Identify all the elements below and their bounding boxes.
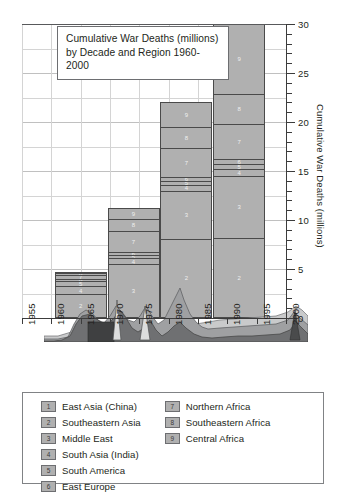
legend-label: Middle East	[62, 433, 113, 444]
y-tick-minor	[286, 191, 292, 192]
legend-swatch-1: 1	[41, 401, 56, 412]
y-axis-tick-label: 15	[298, 166, 309, 177]
legend-label: East Europe	[62, 481, 115, 492]
x-axis-tick-label: 1955	[26, 303, 37, 325]
legend-swatch-6: 6	[41, 481, 56, 492]
x-axis-tick-label: 1970	[114, 303, 125, 325]
x-axis-tick-label: 1975	[143, 303, 154, 325]
y-tick-minor	[286, 161, 292, 162]
y-tick-minor	[286, 63, 292, 64]
legend-swatch-7: 7	[165, 401, 180, 412]
legend-swatch-5: 5	[41, 465, 56, 476]
y-axis-title: Cumulative War Deaths (millions)	[315, 104, 326, 248]
x-axis-tick-label: 1960	[55, 303, 66, 325]
y-tick-minor	[286, 181, 292, 182]
legend-label: Southeastern Africa	[186, 417, 271, 428]
plot-top-border	[22, 24, 286, 25]
legend-swatch-3: 3	[41, 433, 56, 444]
y-tick-minor	[286, 112, 292, 113]
x-tick	[139, 318, 140, 324]
x-tick	[110, 318, 111, 324]
legend-columns: 1East Asia (China)2Southeastern Asia3Mid…	[41, 400, 321, 493]
y-tick-minor	[286, 34, 292, 35]
legend-label: Southeastern Asia	[62, 417, 141, 428]
stream-block-east-asia	[88, 322, 114, 342]
legend-column-left: 1East Asia (China)2Southeastern Asia3Mid…	[41, 400, 141, 493]
y-tick-major	[286, 122, 295, 123]
y-tick-major	[286, 73, 295, 74]
legend-label: Northern Africa	[186, 401, 251, 412]
y-tick-major	[286, 220, 295, 221]
legend-column-right: 7Northern Africa8Southeastern Africa9Cen…	[165, 400, 271, 493]
x-axis-tick-label: 1985	[202, 303, 213, 325]
x-tick	[227, 318, 228, 324]
annual-deaths-stream-area	[44, 48, 308, 342]
legend-item-1[interactable]: 1East Asia (China)	[41, 400, 141, 413]
y-tick-major	[286, 24, 295, 25]
y-axis-tick-label: 25	[298, 68, 309, 79]
legend-swatch-2: 2	[41, 417, 56, 428]
y-tick-minor	[286, 279, 292, 280]
x-tick	[22, 318, 23, 324]
x-axis-tick-label: 1995	[261, 303, 272, 325]
y-tick-minor	[286, 210, 292, 211]
y-tick-minor	[286, 44, 292, 45]
y-tick-major	[286, 171, 295, 172]
legend-label: Central Africa	[186, 433, 244, 444]
legend-swatch-8: 8	[165, 417, 180, 428]
y-tick-minor	[286, 230, 292, 231]
x-axis-tick-label: 1990	[231, 303, 242, 325]
y-tick-minor	[286, 132, 292, 133]
x-tick	[286, 318, 287, 324]
legend-label: East Asia (China)	[62, 401, 137, 412]
x-axis-tick-label: 2000	[290, 303, 301, 325]
x-tick	[51, 318, 52, 324]
chart-figure: 245678934567892345678923456789 051015202…	[0, 0, 346, 378]
legend-label: South Asia (India)	[62, 449, 139, 460]
legend-item-5[interactable]: 5South America	[41, 464, 141, 477]
y-tick-minor	[286, 102, 292, 103]
y-tick-minor	[286, 289, 292, 290]
legend-item-2[interactable]: 2Southeastern Asia	[41, 416, 141, 429]
y-tick-minor	[286, 200, 292, 201]
legend-item-3[interactable]: 3Middle East	[41, 432, 141, 445]
x-tick	[81, 318, 82, 324]
y-tick-minor	[286, 240, 292, 241]
legend-item-6[interactable]: 6East Europe	[41, 480, 141, 493]
chart-title-line-1: Cumulative War Deaths (millions)	[66, 32, 221, 46]
legend-item-9[interactable]: 9Central Africa	[165, 432, 271, 445]
x-axis-tick-label: 1980	[173, 303, 184, 325]
x-tick	[198, 318, 199, 324]
x-tick	[257, 318, 258, 324]
y-axis-tick-label: 5	[298, 264, 303, 275]
y-axis-tick-label: 20	[298, 117, 309, 128]
legend-item-4[interactable]: 4South Asia (India)	[41, 448, 141, 461]
y-tick-minor	[286, 151, 292, 152]
y-tick-minor	[286, 249, 292, 250]
legend-swatch-9: 9	[165, 433, 180, 444]
gridline-vertical	[22, 24, 23, 318]
legend-item-8[interactable]: 8Southeastern Africa	[165, 416, 271, 429]
x-tick	[169, 318, 170, 324]
chart-title-line-2: by Decade and Region 1960-2000	[66, 46, 221, 73]
y-tick-minor	[286, 53, 292, 54]
legend: 1East Asia (China)2Southeastern Asia3Mid…	[22, 392, 324, 484]
y-tick-minor	[286, 298, 292, 299]
chart-title-box: Cumulative War Deaths (millions) by Deca…	[57, 26, 229, 80]
legend-item-7[interactable]: 7Northern Africa	[165, 400, 271, 413]
y-tick-major	[286, 269, 295, 270]
x-axis-tick-label: 1965	[85, 303, 96, 325]
y-tick-minor	[286, 93, 292, 94]
legend-swatch-4: 4	[41, 449, 56, 460]
legend-label: South America	[62, 465, 125, 476]
y-axis-tick-label: 10	[298, 215, 309, 226]
y-tick-minor	[286, 83, 292, 84]
y-tick-minor	[286, 142, 292, 143]
y-axis-tick-label: 30	[298, 19, 309, 30]
y-tick-minor	[286, 259, 292, 260]
